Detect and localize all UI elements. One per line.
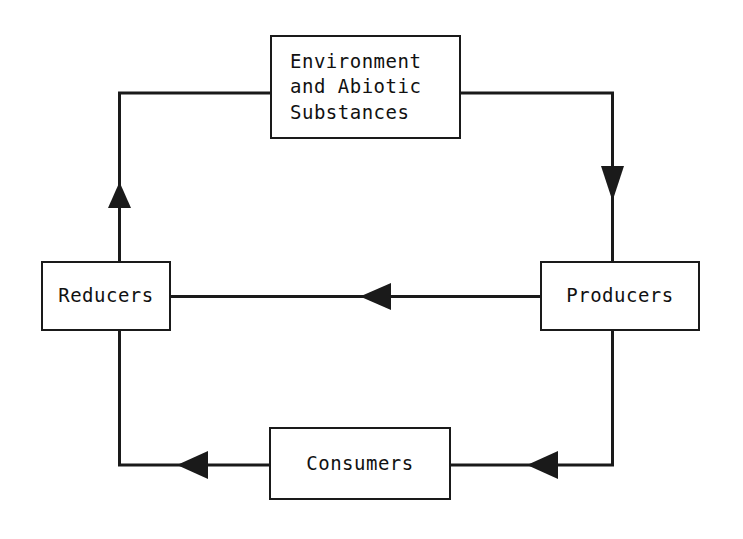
edge-environment-to-producers (461, 93, 624, 261)
ecosystem-cycle-diagram: Environment and Abiotic Substances Reduc… (0, 0, 743, 539)
node-reducers-label: Reducers (58, 283, 154, 308)
arrowhead-up-to-environment (108, 182, 131, 208)
edge-consumers-to-reducers (120, 331, 270, 479)
edge-reducers-to-environment-line (120, 93, 271, 261)
node-environment-label-line3: Substances (290, 100, 409, 125)
node-environment-label-line1: Environment (290, 49, 421, 74)
edge-producers-to-consumers (451, 331, 613, 479)
node-environment-label-line2: and Abiotic (290, 74, 421, 99)
edge-consumers-to-reducers-line (120, 331, 270, 465)
edge-reducers-to-environment (108, 93, 270, 261)
arrowhead-left-to-reducers-lower (177, 451, 208, 479)
node-environment: Environment and Abiotic Substances (270, 35, 461, 139)
node-producers: Producers (540, 261, 700, 331)
edge-environment-to-producers-line (461, 93, 613, 261)
node-consumers-label: Consumers (306, 451, 413, 476)
node-producers-label: Producers (566, 283, 673, 308)
node-consumers: Consumers (269, 427, 451, 500)
edge-producers-to-consumers-line (451, 331, 613, 465)
edge-producers-to-reducers (171, 283, 540, 310)
arrowhead-left-to-reducers (360, 283, 391, 310)
node-reducers: Reducers (41, 261, 171, 331)
arrowhead-down-to-producers (601, 166, 624, 201)
arrowhead-left-to-consumers (527, 451, 558, 479)
